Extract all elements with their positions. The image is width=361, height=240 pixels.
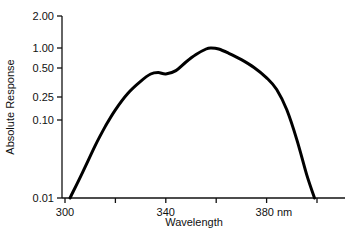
x-axis-title: Wavelength <box>165 216 223 228</box>
x-tick-label: 380 nm <box>256 206 293 218</box>
x-tick-label: 300 <box>56 206 74 218</box>
chart: 2.001.000.500.250.100.01 300340380 nm Wa… <box>0 0 361 240</box>
y-axis-title: Absolute Response <box>4 59 16 154</box>
y-tick-label: 0.25 <box>33 91 54 103</box>
response-curve <box>70 48 315 198</box>
y-tick-label: 1.00 <box>33 42 54 54</box>
y-tick-label: 0.01 <box>33 192 54 204</box>
y-tick-label: 0.50 <box>33 62 54 74</box>
y-axis: 2.001.000.500.250.100.01 <box>33 10 62 204</box>
x-axis: 300340380 nm <box>56 198 345 218</box>
y-tick-label: 0.10 <box>33 114 54 126</box>
y-tick-label: 2.00 <box>33 10 54 22</box>
